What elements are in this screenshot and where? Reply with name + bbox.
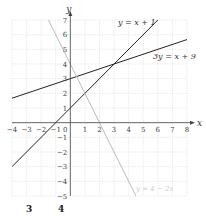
chart-plot: −4−3−2−1012345678−5−4−3−2−11234567xy bbox=[0, 0, 206, 216]
x-tick-label: −3 bbox=[21, 126, 31, 134]
y-tick-label: 6 bbox=[63, 31, 68, 39]
y-tick-label: 2 bbox=[63, 90, 67, 98]
x-axis-arrow-icon bbox=[190, 121, 195, 125]
x-tick-label: 1 bbox=[83, 126, 87, 134]
y-tick-label: 1 bbox=[63, 105, 67, 113]
x-tick-label: 2 bbox=[97, 126, 101, 134]
y-tick-label: −3 bbox=[57, 163, 67, 171]
x-tick-label: −1 bbox=[51, 126, 61, 134]
y-axis-label: y bbox=[65, 4, 72, 14]
x-axis-label: x bbox=[197, 118, 202, 128]
x-tick-label: −2 bbox=[36, 126, 46, 134]
x-tick-label: 4 bbox=[126, 126, 131, 134]
label-line-2: 3y = x + 9 bbox=[153, 52, 196, 61]
x-tick-label: 7 bbox=[170, 126, 174, 134]
x-tick-label: −4 bbox=[7, 126, 18, 134]
y-tick-label: −2 bbox=[57, 149, 67, 157]
x-tick-label: 0 bbox=[63, 126, 67, 134]
y-tick-label: −1 bbox=[57, 134, 67, 142]
y-tick-label: 7 bbox=[63, 17, 67, 25]
bottom-text-2: 4 bbox=[58, 204, 64, 214]
x-tick-label: 5 bbox=[141, 126, 145, 134]
y-tick-label: 5 bbox=[63, 46, 67, 54]
label-line-3: y = 4 − 2x bbox=[136, 185, 173, 193]
x-tick-label: 6 bbox=[156, 126, 161, 134]
y-tick-label: −4 bbox=[57, 178, 68, 186]
label-line-1: y = x + 1 bbox=[118, 18, 156, 27]
y-tick-label: 4 bbox=[63, 61, 68, 69]
y-tick-label: 3 bbox=[63, 75, 67, 83]
y-tick-label: −5 bbox=[57, 193, 67, 201]
bottom-text-1: 3 bbox=[26, 204, 32, 214]
x-tick-label: 3 bbox=[112, 126, 116, 134]
x-tick-label: 8 bbox=[185, 126, 189, 134]
